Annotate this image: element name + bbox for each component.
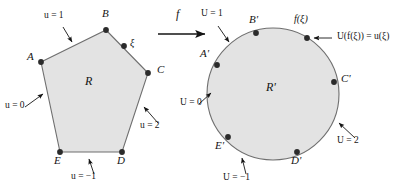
vertex-dot-B-prime <box>253 30 259 36</box>
leader-u-1 <box>63 27 72 42</box>
point-label-f-xi: f(ξ) <box>294 14 308 24</box>
boundary-label-u-minus-1: u = −1 <box>71 172 96 182</box>
vertex-label-E-prime: E' <box>215 140 224 151</box>
pentagon-region-R <box>41 30 148 152</box>
point-label-xi: ξ <box>130 38 134 48</box>
boundary-label-U-minus-1: U = −1 <box>223 173 250 183</box>
vertex-label-A-prime: A' <box>200 48 209 59</box>
vertex-dot-C-prime <box>331 79 337 85</box>
boundary-label-u-0: u = 0 <box>5 101 25 111</box>
annotation-U-f-xi: U(f(ξ)) = u(ξ) <box>337 32 389 42</box>
vertex-label-A: A <box>27 51 34 62</box>
vertex-dot-xi <box>121 43 127 49</box>
vertex-label-E: E <box>54 155 61 166</box>
disk-region-R-prime <box>207 28 339 160</box>
figure-vector-layer <box>0 0 410 195</box>
figure-canvas: A B C D E ξ R u = 1 u = 0 u = 2 u = −1 f… <box>0 0 410 195</box>
leader-U-1 <box>218 26 229 42</box>
vertex-label-D-prime: D' <box>291 155 301 166</box>
vertex-label-C: C <box>157 64 164 75</box>
vertex-dot-A-prime <box>214 62 220 68</box>
boundary-label-U-2: U = 2 <box>337 136 359 146</box>
vertex-dot-f-xi <box>304 35 310 41</box>
leader-u-0 <box>25 94 43 107</box>
vertex-label-D: D <box>117 155 125 166</box>
region-label-R: R <box>85 75 92 87</box>
vertex-label-B: B <box>102 8 109 19</box>
vertex-dot-E-prime <box>225 134 231 140</box>
vertex-label-B-prime: B' <box>249 14 258 25</box>
vertex-label-C-prime: C' <box>341 73 351 84</box>
region-label-R-prime: R' <box>266 81 276 93</box>
boundary-label-U-0: U = 0 <box>180 98 202 108</box>
map-label-f: f <box>176 8 179 20</box>
vertex-dot-A <box>38 59 44 65</box>
vertex-dot-B <box>103 27 109 33</box>
boundary-label-U-1: U = 1 <box>201 9 223 19</box>
boundary-label-u-1: u = 1 <box>44 11 64 21</box>
vertex-dot-C <box>145 70 151 76</box>
boundary-label-u-2: u = 2 <box>140 121 160 131</box>
